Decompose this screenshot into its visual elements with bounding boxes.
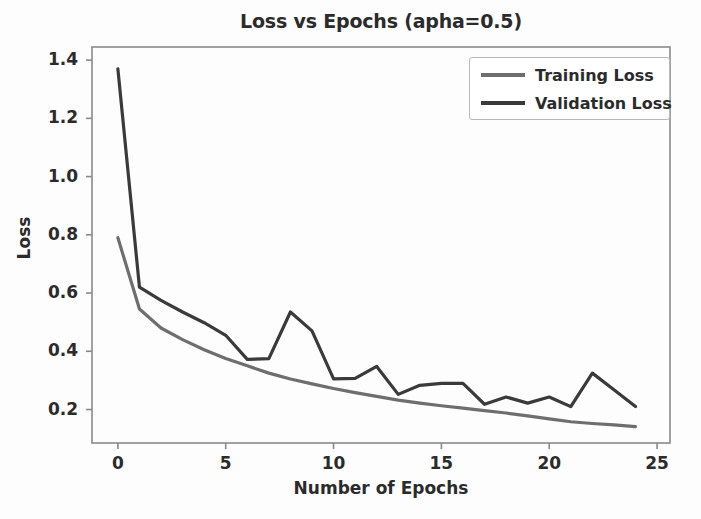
- figure-canvas: Loss vs Epochs (apha=0.5) 0.20.40.60.81.…: [0, 0, 701, 519]
- legend-swatch-training-loss: [481, 73, 525, 77]
- y-tick-label: 0.4: [30, 340, 78, 360]
- x-tick-label: 0: [98, 453, 138, 473]
- y-tick-label: 1.2: [30, 107, 78, 127]
- legend-label-validation-loss: Validation Loss: [535, 94, 672, 113]
- x-tick-label: 5: [206, 453, 246, 473]
- legend-swatch-validation-loss: [481, 101, 525, 105]
- y-tick-label: 1.0: [30, 166, 78, 186]
- y-axis-label: Loss: [14, 198, 34, 278]
- y-tick-label: 0.6: [30, 282, 78, 302]
- x-tick-label: 15: [421, 453, 461, 473]
- series-line: [118, 238, 636, 427]
- x-tick-label: 10: [314, 453, 354, 473]
- x-tick-label: 20: [529, 453, 569, 473]
- legend-label-training-loss: Training Loss: [535, 66, 654, 85]
- chart-legend: Training Loss Validation Loss: [469, 57, 670, 120]
- y-tick-label: 1.4: [30, 49, 78, 69]
- y-tick-label: 0.2: [30, 399, 78, 419]
- legend-item-training-loss: Training Loss: [470, 62, 669, 88]
- x-axis-label: Number of Epochs: [92, 478, 670, 498]
- x-tick-label: 25: [637, 453, 677, 473]
- data-lines: [118, 69, 636, 427]
- legend-item-validation-loss: Validation Loss: [470, 90, 669, 116]
- y-tick-label: 0.8: [30, 224, 78, 244]
